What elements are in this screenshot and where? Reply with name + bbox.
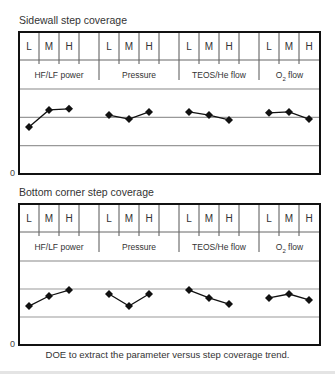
level-label-m: M <box>45 213 53 224</box>
chart-frame <box>19 204 320 345</box>
level-label-m: M <box>125 213 133 224</box>
level-label-m: M <box>205 213 213 224</box>
level-label-l: L <box>266 213 272 224</box>
data-point-h <box>225 300 233 308</box>
level-label-h: H <box>225 41 232 52</box>
group-label: O2 flow <box>276 242 304 254</box>
data-point-h <box>65 286 73 294</box>
chart-frame <box>19 32 320 174</box>
level-label-h: H <box>305 213 312 224</box>
level-label-l: L <box>26 41 32 52</box>
group-label: Pressure <box>122 242 156 252</box>
level-label-l: L <box>186 213 192 224</box>
data-point-h <box>65 105 73 113</box>
data-point-l <box>105 290 113 298</box>
charts-canvas: LMHHF/LF powerLMHPressureLMHTEOS/He flow… <box>0 0 335 374</box>
group-label: TEOS/He flow <box>192 70 247 80</box>
chart-1: LMHHF/LF powerLMHPressureLMHTEOS/He flow… <box>19 32 320 174</box>
data-point-h <box>145 290 153 298</box>
group-label: O2 flow <box>276 70 304 82</box>
level-label-m: M <box>205 41 213 52</box>
level-label-m: M <box>285 41 293 52</box>
level-label-h: H <box>65 213 72 224</box>
level-label-m: M <box>125 41 133 52</box>
level-label-m: M <box>45 41 53 52</box>
data-point-l <box>185 286 193 294</box>
level-label-h: H <box>305 41 312 52</box>
data-point-l <box>265 109 273 117</box>
level-label-l: L <box>186 41 192 52</box>
level-label-l: L <box>266 41 272 52</box>
level-label-h: H <box>225 213 232 224</box>
data-point-l <box>25 302 33 310</box>
group-label: Pressure <box>122 70 156 80</box>
level-label-l: L <box>106 213 112 224</box>
level-label-l: L <box>26 213 32 224</box>
chart-2: LMHHF/LF powerLMHPressureLMHTEOS/He flow… <box>19 204 320 345</box>
data-point-h <box>305 115 313 123</box>
level-label-h: H <box>145 213 152 224</box>
level-label-l: L <box>106 41 112 52</box>
data-point-m <box>285 108 293 116</box>
data-point-m <box>125 302 133 310</box>
group-label: TEOS/He flow <box>192 242 247 252</box>
data-point-h <box>145 108 153 116</box>
level-label-h: H <box>145 41 152 52</box>
label-tail: flow <box>286 242 304 252</box>
data-point-m <box>285 290 293 298</box>
level-label-h: H <box>65 41 72 52</box>
group-label: HF/LF power <box>34 242 83 252</box>
label-tail: flow <box>286 70 304 80</box>
data-point-l <box>265 294 273 302</box>
level-label-m: M <box>285 213 293 224</box>
data-point-h <box>305 296 313 304</box>
data-point-m <box>205 294 213 302</box>
figure-caption: DOE to extract the parameter versus step… <box>0 349 335 360</box>
group-label: HF/LF power <box>34 70 83 80</box>
data-point-m <box>45 292 53 300</box>
data-point-l <box>185 108 193 116</box>
data-point-m <box>125 115 133 123</box>
